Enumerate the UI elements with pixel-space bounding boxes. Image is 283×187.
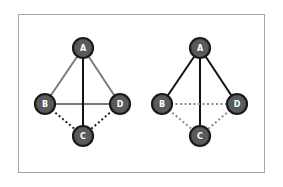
graph-canvas: ABDC ABDC <box>0 0 283 187</box>
left-graph: ABDC <box>35 38 130 146</box>
node-d: D <box>227 94 247 114</box>
node-label: A <box>197 44 204 53</box>
right-graph: ABDC <box>152 38 247 146</box>
node-a: A <box>190 38 210 58</box>
node-label: C <box>197 132 203 141</box>
node-b: B <box>35 94 55 114</box>
node-label: A <box>80 44 87 53</box>
node-label: B <box>159 100 165 109</box>
node-c: C <box>73 126 93 146</box>
node-a: A <box>73 38 93 58</box>
node-c: C <box>190 126 210 146</box>
node-label: D <box>117 100 124 109</box>
node-label: D <box>234 100 241 109</box>
node-label: C <box>80 132 86 141</box>
node-b: B <box>152 94 172 114</box>
node-d: D <box>110 94 130 114</box>
node-label: B <box>42 100 48 109</box>
